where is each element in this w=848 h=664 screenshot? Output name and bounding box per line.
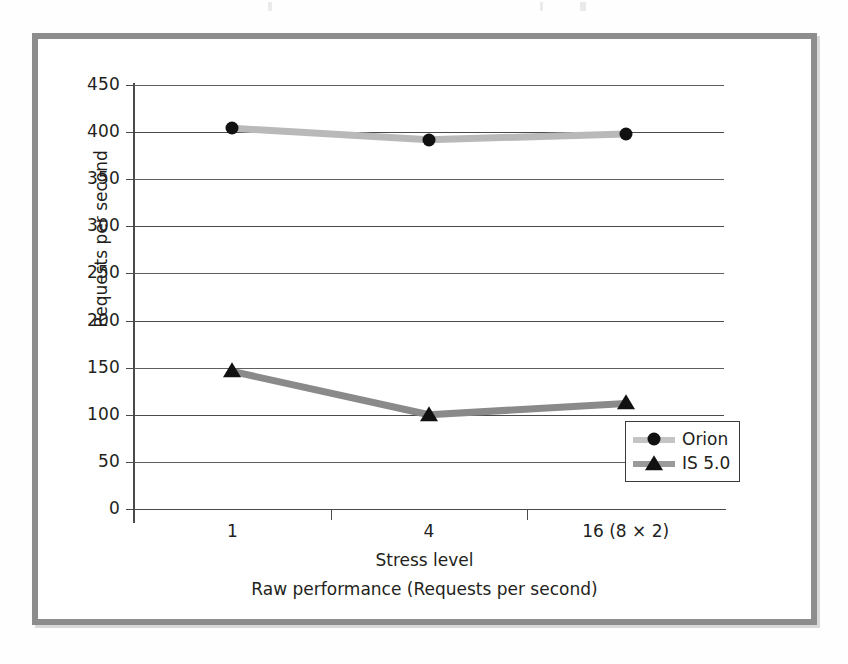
- y-tick-mark: [126, 179, 134, 180]
- y-tick-label: 400: [68, 121, 120, 141]
- y-tick-mark: [126, 368, 134, 369]
- y-tick-label: 150: [68, 357, 120, 377]
- scanned-page: Requests per second 05010015020025030035…: [0, 0, 848, 664]
- circle-marker-icon: [633, 431, 675, 448]
- y-tick-label: 300: [68, 215, 120, 235]
- y-tick-label: 350: [68, 168, 120, 188]
- y-tick-mark: [126, 132, 134, 133]
- x-tick-label: 1: [134, 521, 331, 541]
- gridline: [134, 509, 724, 510]
- scan-artifact: [540, 2, 543, 11]
- figure-caption: Raw performance (Requests per second): [38, 579, 811, 599]
- y-tick-mark: [126, 321, 134, 322]
- y-tick-label: 100: [68, 404, 120, 424]
- triangle-marker-icon: [633, 455, 675, 472]
- legend-item-orion[interactable]: Orion: [633, 427, 730, 451]
- y-tick-mark: [126, 85, 134, 86]
- data-point-is-5-0-0: [223, 363, 241, 378]
- legend-label-orion: Orion: [682, 431, 728, 448]
- y-tick-label: 250: [68, 262, 120, 282]
- data-point-is-5-0-1: [420, 406, 438, 421]
- data-point-is-5-0-2: [617, 395, 635, 410]
- scan-artifact: [580, 2, 586, 11]
- x-tick-label: 16 (8 × 2): [527, 521, 724, 541]
- data-point-orion-1: [423, 133, 436, 146]
- y-tick-label: 450: [68, 74, 120, 94]
- legend-item-is50[interactable]: IS 5.0: [633, 451, 730, 475]
- y-tick-label: 0: [68, 498, 120, 518]
- scan-artifact: [268, 2, 272, 11]
- y-tick-label: 200: [68, 310, 120, 330]
- x-tick-mark: [331, 509, 332, 520]
- x-tick-label: 4: [331, 521, 528, 541]
- y-tick-mark: [126, 509, 134, 510]
- x-axis-title: Stress level: [38, 550, 811, 570]
- y-tick-mark: [126, 415, 134, 416]
- line-chart: Requests per second 05010015020025030035…: [38, 39, 811, 619]
- y-tick-mark: [126, 226, 134, 227]
- figure-frame: Requests per second 05010015020025030035…: [32, 33, 817, 625]
- data-point-orion-0: [226, 122, 239, 135]
- chart-legend[interactable]: Orion IS 5.0: [625, 421, 740, 482]
- x-tick-mark: [527, 509, 528, 520]
- y-tick-label: 50: [68, 451, 120, 471]
- data-point-orion-2: [619, 127, 632, 140]
- legend-label-is50: IS 5.0: [682, 455, 730, 472]
- y-tick-mark: [126, 273, 134, 274]
- y-tick-mark: [126, 462, 134, 463]
